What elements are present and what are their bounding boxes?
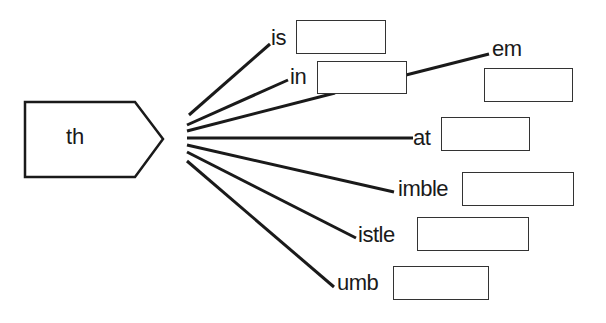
answer-box-imble[interactable] [462,172,574,206]
line-umb [187,161,334,287]
answer-box-em[interactable] [484,68,573,102]
ending-label-imble: imble [398,178,448,200]
answer-box-at[interactable] [441,117,530,151]
line-em-2 [406,54,489,75]
answer-box-is[interactable] [296,20,386,54]
ending-label-at: at [413,127,430,149]
ending-label-in: in [290,66,306,88]
line-is [189,44,270,115]
ending-label-umb: umb [337,272,378,294]
answer-box-umb[interactable] [393,266,489,300]
answer-box-in[interactable] [317,61,407,94]
ending-label-istle: istle [358,224,395,246]
stem-label: th [66,126,84,148]
ending-label-em: em [492,38,522,60]
ending-label-is: is [271,27,286,49]
answer-box-istle[interactable] [417,217,529,251]
stem-arrow-shape [25,102,163,177]
